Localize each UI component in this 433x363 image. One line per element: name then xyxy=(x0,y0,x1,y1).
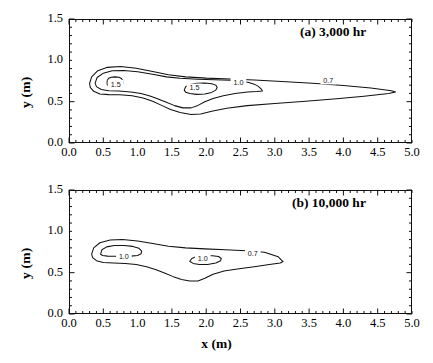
panel-b-contour-canvas: 1.01.00.7 xyxy=(0,0,433,363)
y-tick-label: 1.0 xyxy=(25,223,63,238)
x-tick-label: 5.0 xyxy=(392,145,432,160)
y-tick-label: 1.5 xyxy=(25,11,63,26)
x-tick-label: 5.0 xyxy=(392,316,432,331)
y-tick-label: 1.5 xyxy=(25,182,63,197)
figure-contour-plots: (a) 3,000 hr y (m) 1.51.51.00.7 (b) 10,0… xyxy=(0,0,433,363)
y-tick-label: 0.5 xyxy=(25,94,63,109)
y-tick-label: 0.5 xyxy=(25,265,63,280)
y-tick-label: 1.0 xyxy=(25,52,63,67)
contour-label: 1.0 xyxy=(198,254,208,263)
x-axis-label: x (m) xyxy=(0,336,433,352)
contour-label: 1.0 xyxy=(119,252,129,261)
contour-label: 0.7 xyxy=(248,249,258,258)
